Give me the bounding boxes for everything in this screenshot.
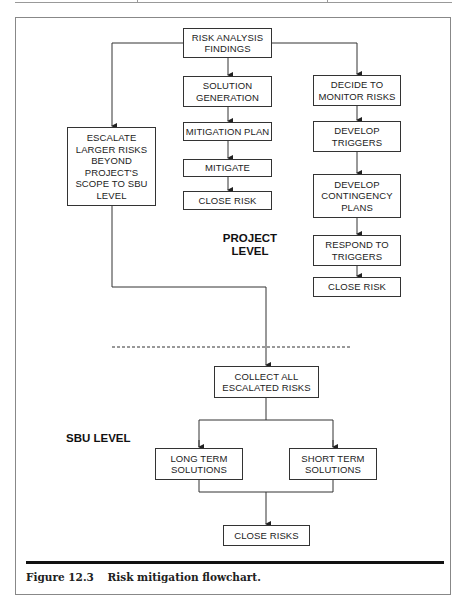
sbu-level-label: SBU LEVEL [66,432,156,445]
figure-title: Risk mitigation flowchart. [108,571,261,583]
node-collect-escalated: COLLECT ALL ESCALATED RISKS [214,366,319,398]
node-develop-triggers: DEVELOP TRIGGERS [313,121,401,152]
node-long-term: LONG TERM SOLUTIONS [155,448,243,480]
node-risk-analysis-findings: RISK ANALYSIS FINDINGS [183,28,272,58]
node-close-risk-monitoring: CLOSE RISK [313,277,401,297]
node-short-term: SHORT TERM SOLUTIONS [289,448,377,480]
node-develop-contingency: DEVELOP CONTINGENCY PLANS [313,174,401,218]
node-escalate: ESCALATE LARGER RISKS BEYOND PROJECT'S S… [67,127,156,206]
project-level-label: PROJECT LEVEL [205,232,295,258]
node-decide-monitor: DECIDE TO MONITOR RISKS [313,75,401,106]
node-mitigate: MITIGATE [183,159,272,177]
node-respond-triggers: RESPOND TO TRIGGERS [313,235,401,266]
node-solution-generation: SOLUTION GENERATION [183,76,272,107]
caption-rule [26,561,444,564]
node-close-risks: CLOSE RISKS [223,525,310,546]
figure-number: Figure 12.3 [26,571,94,583]
node-close-risk-mitigation: CLOSE RISK [183,191,272,210]
figure-caption: Figure 12.3 Risk mitigation flowchart. [26,571,261,583]
node-mitigation-plan: MITIGATION PLAN [183,122,272,141]
